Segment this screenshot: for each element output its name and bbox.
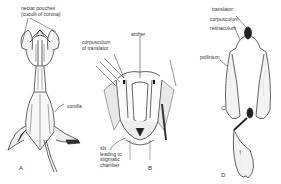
label-slit-stigmatic-chamber: slit leading to stigmatic chamber xyxy=(100,146,122,168)
panel-letter-b: B xyxy=(148,165,152,171)
panel-letter-c: C xyxy=(221,105,225,111)
label-nectar-pouches: nectar pouches (cuculli of corona) xyxy=(21,6,60,17)
label-anther: anther xyxy=(131,32,145,38)
panel-b-gynostegium xyxy=(96,36,176,160)
label-translator: translator: xyxy=(212,7,234,13)
label-corpusculum: corpusculum xyxy=(210,17,238,23)
label-line: (cuculli of corona) xyxy=(21,12,60,18)
label-line: chamber xyxy=(100,163,122,169)
panel-a-flower xyxy=(8,18,80,172)
label-pollinium: pollinium xyxy=(200,55,220,61)
panel-letter-a: A xyxy=(19,165,23,171)
panel-letter-d: D xyxy=(221,172,225,178)
label-corolla: corolla xyxy=(67,104,82,110)
label-line: of translator xyxy=(82,46,110,52)
diagram-artwork xyxy=(0,0,281,184)
label-retinaculum: retinaculum xyxy=(210,26,236,32)
label-corpusculum-of-translator: corpusculum of translator xyxy=(82,40,110,51)
